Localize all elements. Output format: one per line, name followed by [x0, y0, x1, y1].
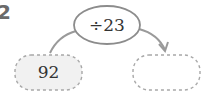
input-value: 92: [15, 60, 82, 84]
output-box[interactable]: [133, 55, 200, 90]
operator-label: ÷23: [73, 13, 141, 37]
